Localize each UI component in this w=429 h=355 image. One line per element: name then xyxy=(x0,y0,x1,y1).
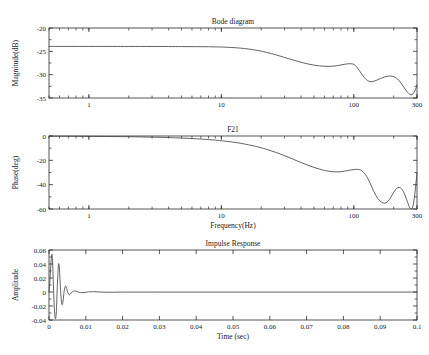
y-tick-label: 0.04 xyxy=(34,261,47,269)
x-tick-label: 1 xyxy=(87,212,91,220)
subplot-impulse: 00.010.020.030.040.050.060.070.080.090.1… xyxy=(11,239,422,341)
x-tick-label: 300 xyxy=(412,212,423,220)
x-tick-label: 0.05 xyxy=(227,323,240,331)
y-tick-label: 0.02 xyxy=(34,275,47,283)
figure-canvas: 110100300-20-25-30-35Bode diagramMagnitu… xyxy=(0,0,429,355)
x-axis-label-phase: Frequency(Hz) xyxy=(210,221,256,230)
y-tick-label: -0.04 xyxy=(31,317,46,325)
x-tick-label: 0.03 xyxy=(153,323,166,331)
x-tick-label: 300 xyxy=(412,101,423,109)
subplot-phase: 1101003000-20-40-60F21Frequency(Hz)Phase… xyxy=(11,125,423,230)
y-tick-label: -0.02 xyxy=(31,303,46,311)
x-tick-label: 10 xyxy=(218,212,226,220)
x-tick-label: 0.06 xyxy=(264,323,277,331)
y-tick-label: 0.06 xyxy=(34,247,47,255)
x-tick-label: 10 xyxy=(218,101,226,109)
x-tick-label: 0.02 xyxy=(116,323,129,331)
plot-title-phase: F21 xyxy=(227,125,239,134)
plot-frame xyxy=(49,250,417,320)
y-tick-label: -60 xyxy=(37,206,47,214)
y-tick-label: -35 xyxy=(37,95,47,103)
x-tick-label: 100 xyxy=(349,212,360,220)
x-tick-label: 0.09 xyxy=(374,323,387,331)
y-tick-label: -30 xyxy=(37,71,47,79)
x-tick-label: 0.01 xyxy=(80,323,93,331)
x-tick-label: 0.07 xyxy=(300,323,313,331)
data-curve-magnitude xyxy=(49,46,417,94)
plot-frame xyxy=(49,28,417,98)
x-tick-label: 0 xyxy=(47,323,51,331)
y-tick-label: 0 xyxy=(43,133,47,141)
x-tick-label: 1 xyxy=(87,101,91,109)
y-tick-label: -20 xyxy=(37,157,47,165)
data-curve-impulse xyxy=(49,254,417,319)
plot-frame xyxy=(49,136,417,209)
x-axis-label-impulse: Time (sec) xyxy=(217,332,250,341)
y-axis-label-impulse: Amplitude xyxy=(11,268,20,301)
y-axis-label-phase: Phase(deg) xyxy=(11,155,20,189)
plot-title-impulse: Impulse Response xyxy=(206,239,261,248)
x-tick-label: 100 xyxy=(349,101,360,109)
y-tick-label: -25 xyxy=(37,48,47,56)
y-axis-label-magnitude: Magnitude(dB) xyxy=(11,39,20,86)
y-tick-label: -40 xyxy=(37,181,47,189)
plot-title-magnitude: Bode diagram xyxy=(212,17,254,26)
y-tick-label: 0 xyxy=(43,289,47,297)
x-tick-label: 0.08 xyxy=(337,323,350,331)
x-tick-label: 0.04 xyxy=(190,323,203,331)
x-tick-label: 0.1 xyxy=(413,323,422,331)
data-curve-phase xyxy=(49,136,417,209)
subplot-magnitude: 110100300-20-25-30-35Bode diagramMagnitu… xyxy=(11,17,423,109)
y-tick-label: -20 xyxy=(37,25,47,33)
